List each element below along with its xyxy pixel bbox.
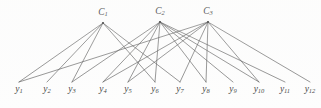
leaf-label-y6: y6 — [151, 85, 158, 95]
leaf-label-y3: y3 — [68, 85, 75, 95]
graph-edge — [160, 22, 206, 82]
graph-edge — [19, 23, 103, 82]
leaf-label-subscript: 10 — [258, 87, 265, 94]
cluster-label-subscript: 3 — [210, 9, 213, 16]
graph-edge — [103, 22, 160, 82]
cluster-label-c3: C3 — [203, 7, 213, 17]
leaf-label-y5: y5 — [124, 85, 131, 95]
graph-edge — [208, 22, 259, 82]
leaf-label-subscript: 6 — [155, 87, 158, 94]
cluster-label-subscript: 1 — [105, 10, 108, 17]
graph-edge — [47, 23, 103, 82]
leaf-label-subscript: 5 — [128, 87, 131, 94]
cluster-label-subscript: 2 — [162, 9, 165, 16]
leaf-label-subscript: 1 — [19, 87, 22, 94]
leaf-label-subscript: 3 — [72, 87, 75, 94]
leaf-label-subscript: 11 — [284, 87, 290, 94]
graph-edge — [103, 23, 180, 82]
leaf-label-y2: y2 — [43, 85, 50, 95]
leaf-label-y12: y12 — [305, 85, 316, 95]
cluster-node-dot-c3 — [207, 21, 209, 23]
leaf-label-y11: y11 — [280, 85, 290, 95]
leaf-label-y1: y1 — [15, 85, 22, 95]
cluster-node-dot-c1 — [102, 22, 104, 24]
graph-edge — [160, 22, 259, 82]
edges-group — [19, 22, 310, 82]
leaf-label-y4: y4 — [99, 85, 106, 95]
leaf-label-subscript: 9 — [233, 87, 236, 94]
graph-edge — [72, 23, 103, 82]
graph-edge — [206, 22, 208, 82]
leaf-label-subscript: 7 — [180, 87, 183, 94]
leaf-label-subscript: 8 — [206, 87, 209, 94]
leaf-label-y9: y9 — [229, 85, 236, 95]
leaf-label-y7: y7 — [176, 85, 183, 95]
leaf-label-subscript: 12 — [309, 87, 316, 94]
cluster-node-dots-group — [102, 21, 209, 24]
figure-canvas: C1C2C3y1y2y3y4y5y6y7y8y9y10y11y12 — [0, 0, 321, 108]
cluster-label-c1: C1 — [98, 8, 108, 18]
cluster-label-c2: C2 — [155, 7, 165, 17]
leaf-label-subscript: 4 — [103, 87, 106, 94]
leaf-label-subscript: 2 — [47, 87, 50, 94]
leaf-label-y10: y10 — [254, 85, 265, 95]
cluster-node-dot-c2 — [159, 21, 161, 23]
graph-edge — [180, 22, 208, 82]
leaf-label-y8: y8 — [202, 85, 209, 95]
